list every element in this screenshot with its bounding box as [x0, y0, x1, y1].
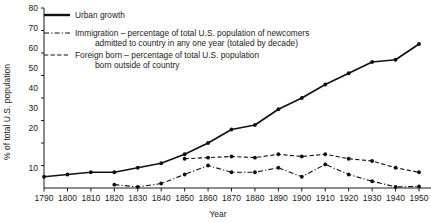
x-tick-1950: 1950: [410, 193, 429, 203]
y-tick-20: 20: [29, 123, 39, 133]
data-point: [323, 162, 327, 166]
x-tick-1910: 1910: [316, 193, 335, 203]
x-tick-1880: 1880: [245, 193, 264, 203]
y-tick-30: 30: [29, 103, 39, 113]
x-tick-1810: 1810: [81, 193, 100, 203]
x-tick-1930: 1930: [363, 193, 382, 203]
data-point: [300, 96, 304, 100]
data-point: [159, 161, 163, 165]
y-tick-50: 50: [29, 63, 39, 73]
x-tick-labels: 1790180018101820183018401850186018701880…: [35, 193, 429, 203]
legend-label-immigration-line1: Immigration – percentage of total U.S. p…: [75, 28, 309, 38]
line-chart: % of total U.S. population 80 70 60 50 4…: [0, 0, 431, 223]
data-point: [417, 185, 421, 189]
legend: Urban growth Immigration – percentage of…: [44, 10, 309, 70]
data-point: [253, 123, 257, 127]
data-point: [183, 173, 187, 177]
y-tick-labels: 80 70 60 50 40 30 20 10: [29, 3, 39, 173]
data-point: [112, 170, 116, 174]
data-point: [417, 42, 421, 46]
data-point: [323, 83, 327, 87]
x-tick-1820: 1820: [105, 193, 124, 203]
x-tick-1920: 1920: [339, 193, 358, 203]
x-tick-1800: 1800: [58, 193, 77, 203]
x-tick-1900: 1900: [292, 193, 311, 203]
data-point: [136, 166, 140, 170]
legend-label-foreign-born-line1: Foreign born – percentage of total U.S. …: [75, 50, 259, 60]
y-tick-60: 60: [29, 43, 39, 53]
data-point: [300, 155, 304, 159]
x-tick-1870: 1870: [222, 193, 241, 203]
data-point: [323, 152, 327, 156]
data-point: [347, 173, 351, 177]
x-tick-1840: 1840: [152, 193, 171, 203]
data-point: [370, 159, 374, 163]
data-point: [230, 155, 234, 159]
data-point: [206, 141, 210, 145]
data-point: [394, 58, 398, 62]
x-tick-1860: 1860: [199, 193, 218, 203]
data-point: [253, 170, 257, 174]
data-point: [300, 175, 304, 179]
y-axis-title: % of total U.S. population: [2, 64, 12, 160]
data-point: [276, 152, 280, 156]
data-point: [42, 175, 46, 179]
legend-label-foreign-born-line2: born outside of country: [95, 60, 180, 70]
x-tick-1850: 1850: [175, 193, 194, 203]
x-tick-1940: 1940: [386, 193, 405, 203]
data-point: [253, 156, 257, 160]
data-point: [89, 170, 93, 174]
y-tick-80: 80: [29, 3, 39, 13]
chart-container: % of total U.S. population 80 70 60 50 4…: [0, 0, 431, 223]
legend-label-urban-growth: Urban growth: [75, 10, 125, 20]
data-point: [394, 185, 398, 189]
x-tick-1790: 1790: [35, 193, 54, 203]
data-point: [183, 157, 187, 161]
data-point: [230, 170, 234, 174]
data-point: [347, 71, 351, 75]
y-tick-70: 70: [29, 23, 39, 33]
data-point: [276, 166, 280, 170]
data-point: [183, 152, 187, 156]
x-tick-1830: 1830: [128, 193, 147, 203]
data-point: [66, 173, 70, 177]
data-point: [206, 156, 210, 160]
data-point: [206, 164, 210, 168]
y-tick-40: 40: [29, 83, 39, 93]
legend-label-immigration-line2: admitted to country in any one year (tot…: [95, 38, 298, 48]
x-tick-1890: 1890: [269, 193, 288, 203]
data-point: [112, 183, 116, 187]
data-point: [136, 185, 140, 189]
data-point: [370, 179, 374, 183]
data-point: [230, 128, 234, 132]
data-point: [370, 60, 374, 64]
data-point: [417, 170, 421, 174]
y-tick-10: 10: [29, 163, 39, 173]
data-point: [394, 166, 398, 170]
data-point: [159, 182, 163, 186]
data-point: [276, 107, 280, 111]
data-point: [347, 157, 351, 161]
x-axis-title: Year: [209, 209, 226, 219]
